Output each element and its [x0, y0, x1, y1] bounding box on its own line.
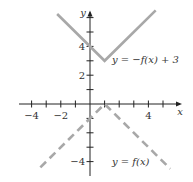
y-tick-label: 4	[79, 41, 85, 52]
x-axis-label: x	[177, 106, 183, 117]
chart: −4−2442−4xyy = −f(x) + 3y = f(x)	[0, 0, 193, 182]
labels-layer: −4−2442−4xyy = −f(x) + 3y = f(x)	[24, 7, 183, 167]
y-axis-arrow	[88, 10, 93, 16]
x-tick-label: −4	[24, 110, 39, 121]
y-tick-label: 2	[79, 70, 85, 81]
series-layer	[40, 10, 170, 168]
x-tick-label: 4	[145, 110, 151, 121]
annotation-neg-f-plus-3: y = −f(x) + 3	[111, 54, 179, 65]
y-tick-label: −4	[70, 156, 85, 167]
annotation-f: y = f(x)	[111, 156, 150, 167]
axes	[19, 10, 182, 176]
x-tick-label: −2	[53, 110, 68, 121]
y-axis-label: y	[79, 7, 86, 18]
